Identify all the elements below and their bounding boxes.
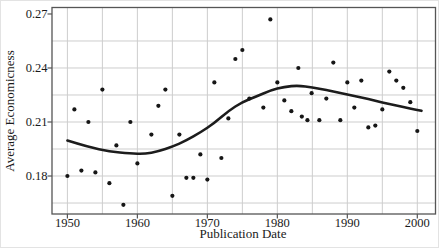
scatter-plot-figure: 1950196019701980199020000.180.210.240.27… — [0, 0, 439, 248]
data-point — [275, 80, 279, 84]
data-point — [305, 118, 309, 122]
y-tick-label: 0.21 — [26, 115, 48, 129]
data-point — [100, 87, 104, 91]
data-point — [79, 169, 83, 173]
data-point — [226, 116, 230, 120]
data-point — [261, 105, 265, 109]
y-tick-label: 0.27 — [26, 7, 48, 21]
data-point — [338, 118, 342, 122]
data-point — [212, 80, 216, 84]
y-axis-label: Average Economicness — [2, 50, 17, 171]
data-point — [163, 87, 167, 91]
y-tick-label: 0.18 — [26, 169, 48, 183]
data-point — [317, 118, 321, 122]
data-point — [373, 124, 377, 128]
data-point — [380, 107, 384, 111]
data-point — [289, 109, 293, 113]
data-point — [156, 104, 160, 108]
data-point — [170, 194, 174, 198]
data-point — [387, 69, 391, 73]
data-point — [86, 120, 90, 124]
y-tick-label: 0.24 — [26, 61, 49, 75]
data-point — [331, 60, 335, 64]
data-point — [149, 133, 153, 137]
x-tick-label: 1950 — [55, 216, 80, 230]
data-point — [93, 170, 97, 174]
data-point — [128, 120, 132, 124]
data-point — [268, 17, 272, 21]
data-point — [324, 96, 328, 100]
data-point — [247, 96, 251, 100]
data-point — [240, 48, 244, 52]
data-point — [310, 91, 314, 95]
data-point — [107, 181, 111, 185]
data-point — [401, 86, 405, 90]
x-tick-label: 2000 — [405, 216, 430, 230]
data-point — [282, 98, 286, 102]
data-point — [345, 80, 349, 84]
x-axis-label: Publication Date — [199, 226, 286, 241]
data-point — [394, 78, 398, 82]
x-tick-label: 1960 — [125, 216, 150, 230]
data-point — [205, 178, 209, 182]
data-point — [296, 66, 300, 70]
data-point — [72, 107, 76, 111]
data-point — [191, 176, 195, 180]
trend-line — [67, 86, 421, 154]
data-point — [219, 156, 223, 160]
data-point — [359, 78, 363, 82]
data-point — [352, 105, 356, 109]
data-point — [198, 152, 202, 156]
data-point — [415, 129, 419, 133]
data-point — [114, 143, 118, 147]
data-point — [177, 133, 181, 137]
data-point — [233, 57, 237, 61]
axis-ticks — [48, 14, 418, 219]
x-tick-label: 1990 — [335, 216, 360, 230]
data-point — [300, 115, 304, 119]
data-point — [184, 176, 188, 180]
data-point — [135, 161, 139, 165]
data-point — [408, 100, 412, 104]
data-point — [121, 203, 125, 207]
data-point — [65, 174, 69, 178]
scatter-plot: 1950196019701980199020000.180.210.240.27… — [1, 1, 439, 248]
data-point — [366, 125, 370, 129]
